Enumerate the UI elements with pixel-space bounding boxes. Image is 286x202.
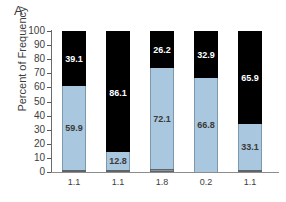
figure-panel-a: A Percent of Frequency 10090807060504030… — [0, 0, 286, 202]
x-axis-tick-label: 1.8 — [142, 177, 182, 187]
stacked-bar[interactable]: 72.126.2 — [150, 31, 174, 172]
bar-group: 72.126.2 — [150, 31, 174, 172]
x-axis-tick-label: 1.1 — [54, 177, 94, 187]
stacked-bar[interactable]: 33.165.9 — [238, 31, 262, 172]
bar-segment-value: 32.9 — [195, 50, 217, 60]
bar-segment-top[interactable]: 39.1 — [62, 31, 86, 86]
bar-segment-value: 33.1 — [239, 142, 261, 152]
bar-segment-value: 72.1 — [151, 114, 173, 124]
bar-segment-value: 39.1 — [63, 54, 85, 64]
bar-segment-middle[interactable]: 12.8 — [106, 152, 130, 170]
plot-area: 59.939.11.112.886.11.172.126.21.866.832.… — [0, 0, 286, 202]
bar-segment-value: 65.9 — [239, 73, 261, 83]
bar-segment-top[interactable]: 65.9 — [238, 31, 262, 124]
x-axis-tick-label: 1.1 — [230, 177, 270, 187]
bar-segment-value: 66.8 — [195, 120, 217, 130]
bar-group: 33.165.9 — [238, 31, 262, 172]
bar-segment-value: 59.9 — [63, 123, 85, 133]
x-axis-tick-label: 1.1 — [98, 177, 138, 187]
stacked-bar[interactable]: 66.832.9 — [194, 31, 218, 172]
bar-segment-bottom[interactable] — [150, 169, 174, 172]
bar-segment-middle[interactable]: 33.1 — [238, 124, 262, 171]
bar-segment-value: 12.8 — [107, 156, 129, 166]
bar-segment-middle[interactable]: 72.1 — [150, 68, 174, 170]
stacked-bar[interactable]: 59.939.1 — [62, 31, 86, 172]
bar-segment-middle[interactable]: 66.8 — [194, 78, 218, 172]
bar-group: 59.939.1 — [62, 31, 86, 172]
bar-segment-middle[interactable]: 59.9 — [62, 86, 86, 170]
bar-group: 66.832.9 — [194, 31, 218, 172]
stacked-bar[interactable]: 12.886.1 — [106, 31, 130, 172]
bar-group: 12.886.1 — [106, 31, 130, 172]
bar-segment-top[interactable]: 26.2 — [150, 31, 174, 68]
bar-segment-value: 26.2 — [151, 45, 173, 55]
bar-segment-value: 86.1 — [107, 88, 129, 98]
bar-segment-top[interactable]: 86.1 — [106, 31, 130, 152]
bar-segment-top[interactable]: 32.9 — [194, 31, 218, 77]
x-axis-tick-label: 0.2 — [186, 177, 226, 187]
